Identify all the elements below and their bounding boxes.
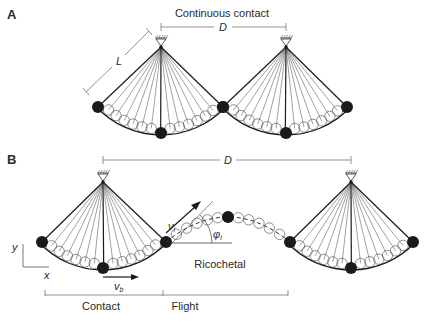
panel-b-distance-bar: D: [103, 154, 351, 166]
body-mass: [36, 236, 48, 248]
pendulum: [92, 35, 229, 139]
panel-a: A Continuous contact D L: [7, 7, 353, 139]
panel-a-distance-label: D: [219, 21, 227, 33]
panel-a-label: A: [7, 7, 17, 22]
initial-velocity-label: vi: [168, 220, 176, 233]
body-position-ghost: [192, 115, 202, 125]
pendulum: [284, 170, 419, 274]
body-mass: [407, 236, 419, 248]
body-velocity-vector: vb: [103, 274, 139, 293]
pivot-support-icon: [155, 35, 168, 46]
continuous-contact-caption: Continuous contact: [175, 7, 269, 19]
panel-a-distance-bar: D: [161, 21, 286, 33]
body-mass: [217, 101, 229, 113]
body-position-ghost: [174, 122, 184, 132]
launch-angle-label: φi: [213, 228, 222, 241]
x-axis-label: x: [43, 269, 50, 281]
body-position-ghost: [208, 105, 218, 115]
panel-a-length-bar: L: [83, 28, 152, 95]
body-position-ghost: [262, 122, 272, 132]
phase-brackets: Contact Flight: [45, 290, 288, 312]
contact-phase-label: Contact: [82, 300, 120, 312]
body-position-ghost: [200, 111, 210, 121]
pivot-support-icon: [97, 170, 110, 181]
flight-position-ghost: [264, 223, 274, 233]
brachiation-diagram: A Continuous contact D L B D: [0, 0, 432, 324]
y-axis-label: y: [11, 241, 19, 253]
pivot-support-icon: [345, 170, 358, 181]
body-mass: [92, 101, 104, 113]
body-mass: [97, 262, 109, 274]
panel-b-distance-label: D: [224, 154, 232, 166]
ricochetal-label: Ricochetal: [194, 258, 245, 270]
body-velocity-label: vb: [114, 280, 124, 293]
pendulum: [217, 35, 353, 139]
flight-position-ghost: [243, 215, 253, 225]
body-mass: [341, 101, 353, 113]
pendulum: [36, 170, 172, 274]
body-position-ghost: [228, 105, 238, 115]
pivot-support-icon: [280, 35, 293, 46]
flight-apex-body: [222, 211, 234, 223]
panel-a-pendulums: [92, 35, 353, 139]
panel-b: B D vi φi Ricochetal: [7, 152, 419, 312]
body-mass: [345, 262, 357, 274]
panel-b-label: B: [7, 152, 16, 167]
flight-position-ghost: [202, 215, 212, 225]
length-label: L: [116, 55, 122, 67]
flight-position-ghost: [274, 229, 284, 239]
body-mass: [280, 127, 292, 139]
body-mass: [155, 127, 167, 139]
flight-phase-label: Flight: [172, 300, 199, 312]
